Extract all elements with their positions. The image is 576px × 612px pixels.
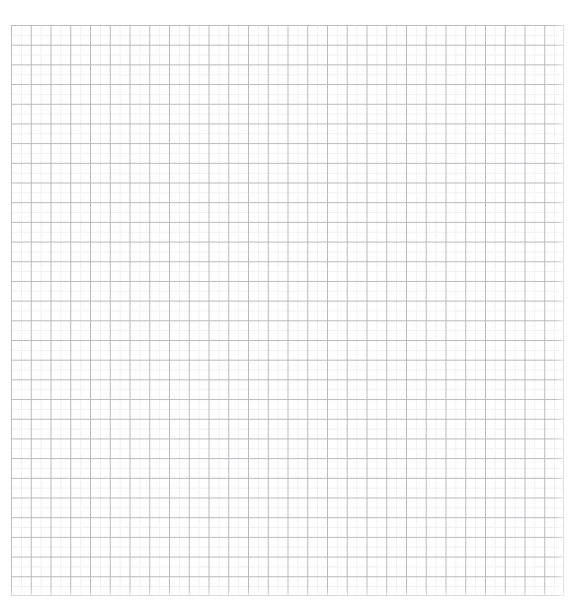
graph-paper-grid[interactable]: [11, 25, 564, 596]
grid-major-lines: [11, 25, 564, 596]
page-canvas: [0, 0, 576, 612]
top-caption-fragment: [0, 0, 576, 5]
